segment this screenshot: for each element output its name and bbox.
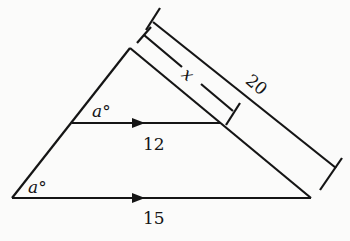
top-segment-label: 12	[143, 134, 165, 154]
x-dimension-line	[201, 84, 233, 111]
angle-top-label: a°	[92, 101, 111, 121]
base-segment-label: 15	[143, 208, 165, 228]
parallel-arrow-icon	[132, 193, 145, 203]
similar-triangles-diagram: x 20 12 15 a° a°	[0, 0, 350, 241]
total-label: 20	[242, 70, 271, 99]
parallel-arrow-icon	[132, 118, 145, 128]
x-dimension-tick	[137, 27, 151, 43]
angle-bottom-label: a°	[28, 177, 47, 197]
total-dimension-line	[153, 22, 336, 168]
